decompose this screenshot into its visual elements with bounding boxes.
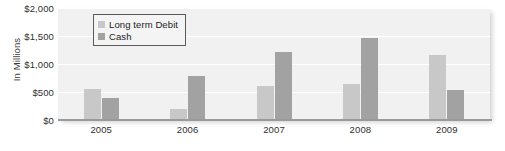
legend-item-label: Cash bbox=[109, 31, 132, 42]
legend-item-label: Long term Debit bbox=[109, 19, 178, 30]
x-axis-tick-labels: 20052006200720082009 bbox=[58, 124, 490, 140]
legend-swatch-icon bbox=[98, 33, 105, 40]
bar bbox=[447, 90, 464, 120]
y-axis-tick-labels: $0$500$1,000$1,500$2,000 bbox=[0, 8, 58, 120]
y-axis-tick-label: $1,000 bbox=[24, 59, 54, 70]
bar bbox=[429, 55, 446, 120]
legend-item: Cash bbox=[98, 30, 178, 42]
legend-swatch-icon bbox=[98, 21, 105, 28]
x-axis-tick-label: 2008 bbox=[350, 124, 372, 135]
chart-legend: Long term Debit Cash bbox=[93, 14, 186, 46]
y-axis-tick-label: $500 bbox=[32, 87, 54, 98]
x-axis-tick-label: 2009 bbox=[436, 124, 458, 135]
bar-chart: In Millions $0$500$1,000$1,500$2,000 Lon… bbox=[0, 0, 505, 151]
plot-area: Long term Debit Cash bbox=[58, 8, 490, 120]
y-axis-tick-label: $2,000 bbox=[24, 3, 54, 14]
y-axis-tick-label: $0 bbox=[43, 115, 54, 126]
x-axis-tick-label: 2006 bbox=[177, 124, 199, 135]
y-axis-tick-label: $1,500 bbox=[24, 31, 54, 42]
x-axis-tick-label: 2007 bbox=[263, 124, 285, 135]
x-axis-line bbox=[58, 119, 492, 121]
x-axis-tick-label: 2005 bbox=[90, 124, 112, 135]
legend-item: Long term Debit bbox=[98, 18, 178, 30]
